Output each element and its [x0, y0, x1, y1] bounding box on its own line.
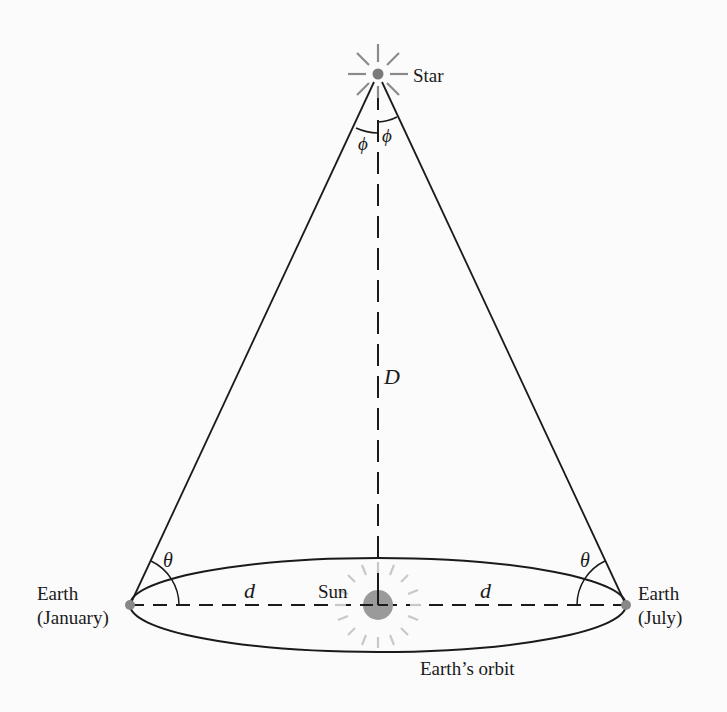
- orbit-label: Earth’s orbit: [420, 658, 515, 679]
- earth-january-label-1: Earth: [37, 583, 79, 604]
- distance-D-label: D: [383, 364, 400, 389]
- d-left-label: d: [244, 578, 256, 603]
- earth-july-dot: [621, 600, 631, 610]
- star-label: Star: [413, 65, 444, 86]
- d-right-label: d: [480, 578, 492, 603]
- angle-arc-phi-right: [378, 117, 397, 122]
- sun-label: Sun: [318, 581, 348, 602]
- sightline-july: [382, 82, 626, 605]
- earth-january-dot: [125, 600, 135, 610]
- star-icon: [348, 44, 408, 98]
- phi-right-label: ϕ: [382, 125, 392, 146]
- parallax-diagram: Star ϕ ϕ D θ θ d d Sun Earth (January) E…: [0, 0, 727, 712]
- earth-july-label-2: (July): [638, 607, 682, 629]
- theta-right-label: θ: [580, 549, 590, 571]
- earth-july-label-1: Earth: [638, 583, 680, 604]
- theta-left-label: θ: [163, 549, 173, 571]
- earth-january-label-2: (January): [37, 607, 109, 629]
- sightline-january: [130, 82, 374, 605]
- phi-left-label: ϕ: [358, 133, 368, 154]
